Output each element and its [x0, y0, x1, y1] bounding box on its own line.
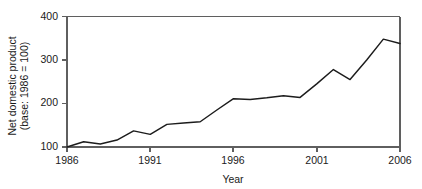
y-tick-marks [62, 17, 67, 148]
x-tick-marks [67, 147, 400, 152]
x-tick-label-2001: 2001 [305, 154, 329, 166]
y-tick-label-400: 400 [40, 10, 58, 22]
y-axis-title: Net domestic product (base: 1986 = 100) [6, 36, 30, 135]
y-axis-title-line-2: (base: 1986 = 100) [18, 42, 30, 130]
y-tick-label-300: 300 [40, 53, 58, 65]
x-tick-label-1991: 1991 [138, 154, 162, 166]
x-tick-label-1986: 1986 [55, 154, 79, 166]
y-tick-label-200: 200 [40, 96, 58, 108]
data-series-line [67, 39, 400, 147]
y-tick-label-100: 100 [40, 140, 58, 152]
y-tick-labels: 400 300 200 100 [40, 10, 58, 152]
x-axis-title: Year [222, 173, 244, 185]
x-tick-label-2006: 2006 [388, 154, 412, 166]
line-chart: Net domestic product (base: 1986 = 100) … [0, 0, 422, 189]
y-axis-title-line-1: Net domestic product [6, 36, 18, 135]
x-tick-labels: 1986 1991 1996 2001 2006 [55, 154, 412, 166]
x-tick-label-1996: 1996 [221, 154, 245, 166]
chart-figure: Net domestic product (base: 1986 = 100) … [0, 0, 422, 189]
